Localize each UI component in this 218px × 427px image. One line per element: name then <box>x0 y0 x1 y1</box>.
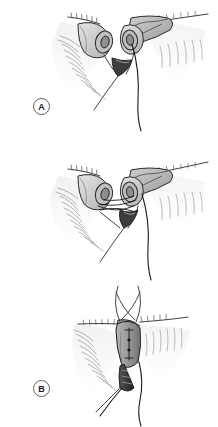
panel-c-illustration <box>0 284 218 427</box>
panel-a: A <box>0 0 218 142</box>
panel-a-illustration <box>0 0 218 142</box>
panel-b-illustration <box>0 142 218 284</box>
wound-edge-contours <box>96 388 120 412</box>
silicone-stent-distal <box>119 364 134 391</box>
repaired-canaliculus <box>116 320 141 368</box>
panel-label-a: A <box>33 98 50 115</box>
suture-tails <box>115 286 140 322</box>
panel-b: B <box>0 142 218 284</box>
canalicular-laceration-gap <box>120 210 139 228</box>
figure-sheet: A <box>0 0 218 427</box>
suture-thread <box>142 194 151 280</box>
canalicular-laceration-gap <box>112 58 132 76</box>
panel-c: C <box>0 284 218 427</box>
